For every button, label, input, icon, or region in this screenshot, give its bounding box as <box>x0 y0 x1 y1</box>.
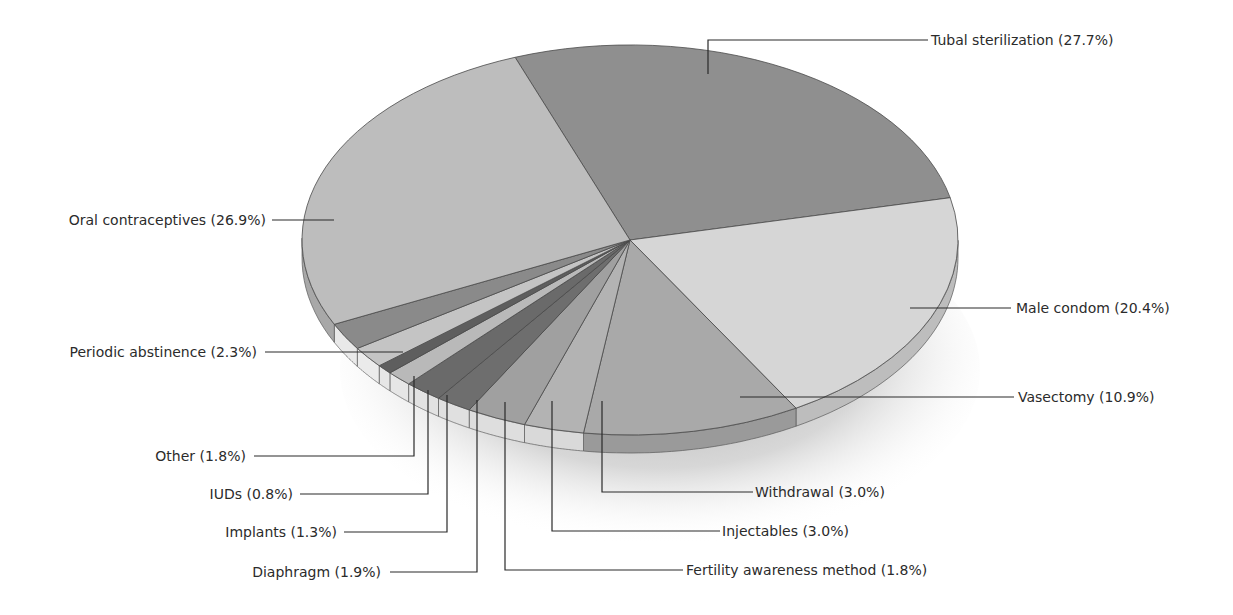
label-injectables: Injectables (3.0%) <box>722 523 849 539</box>
label-periodic-abstinence: Periodic abstinence (2.3%) <box>70 344 257 360</box>
label-oral-contraceptives: Oral contraceptives (26.9%) <box>69 212 266 228</box>
label-iuds: IUDs (0.8%) <box>210 486 293 502</box>
label-other: Other (1.8%) <box>155 448 246 464</box>
label-withdrawal: Withdrawal (3.0%) <box>755 484 885 500</box>
label-diaphragm: Diaphragm (1.9%) <box>252 564 381 580</box>
pie-slices <box>302 45 958 435</box>
label-implants: Implants (1.3%) <box>225 524 337 540</box>
pie-chart: Tubal sterilization (27.7%) Oral contrac… <box>0 0 1233 615</box>
label-male-condom: Male condom (20.4%) <box>1016 300 1170 316</box>
label-tubal-sterilization: Tubal sterilization (27.7%) <box>930 32 1114 48</box>
label-vasectomy: Vasectomy (10.9%) <box>1018 389 1155 405</box>
label-fertility-awareness-method: Fertility awareness method (1.8%) <box>686 562 927 578</box>
